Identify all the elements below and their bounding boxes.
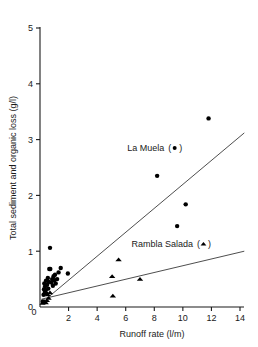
y-tick-label: 2 (28, 191, 33, 201)
data-point-la-muela (46, 286, 50, 290)
chart-figure: 012345 02468101214 La Muela()Rambla Sala… (0, 0, 258, 347)
data-point-la-muela (48, 246, 52, 250)
data-point-la-muela (66, 271, 70, 275)
la-muela-annotation-text: La Muela (127, 143, 164, 153)
scatter-plot-svg: 012345 02468101214 La Muela()Rambla Sala… (0, 0, 258, 347)
regression-lines (41, 133, 244, 299)
x-tick-label: 4 (95, 313, 100, 323)
triangle-marker-icon (201, 242, 207, 245)
x-tick-label: 6 (123, 313, 128, 323)
rambla-salada-annotation-paren-close: ) (208, 239, 211, 249)
rambla-salada-annotation: Rambla Salada() (131, 239, 211, 249)
y-tick-label: 4 (28, 79, 33, 89)
data-point-rambla-salada (110, 294, 116, 298)
la-muela-annotation-paren-close: ) (179, 143, 182, 153)
y-tick-label: 3 (28, 135, 33, 145)
data-point-rambla-salada (137, 277, 143, 281)
rambla-salada-annotation-paren-open: ( (197, 239, 200, 249)
data-point-la-muela (48, 267, 52, 271)
y-axis-ticks: 012345 (28, 23, 40, 312)
data-point-la-muela (206, 116, 210, 120)
x-axis-ticks: 02468101214 (31, 307, 245, 323)
la-muela-annotation-paren-open: ( (168, 143, 171, 153)
x-tick-label: 8 (152, 313, 157, 323)
regression-line-la-muela (49, 133, 245, 297)
data-point-la-muela (46, 276, 50, 280)
data-point-la-muela (155, 174, 159, 178)
x-tick-label: 12 (206, 313, 216, 323)
data-point-markers (39, 116, 210, 305)
x-axis-title: Runoff rate (l/m) (120, 329, 185, 339)
data-point-la-muela (184, 202, 188, 206)
la-muela-annotation: La Muela() (127, 143, 182, 153)
x-tick-label: 14 (235, 313, 245, 323)
circle-marker-icon (173, 146, 177, 150)
data-point-la-muela (59, 266, 63, 270)
data-point-la-muela (175, 224, 179, 228)
plot-axes (40, 27, 244, 307)
data-point-la-muela (55, 277, 59, 281)
x-tick-label: 0 (31, 307, 36, 317)
data-point-rambla-salada (115, 258, 121, 262)
y-tick-label: 5 (28, 23, 33, 33)
data-point-la-muela (56, 270, 60, 274)
y-tick-label: 1 (28, 247, 33, 257)
rambla-salada-annotation-text: Rambla Salada (131, 239, 193, 249)
x-tick-label: 2 (66, 313, 71, 323)
regression-line-rambla-salada (41, 251, 244, 299)
x-tick-label: 10 (178, 313, 188, 323)
data-point-rambla-salada (109, 274, 115, 278)
y-axis-title: Total sediment and organic loss (g/l) (8, 96, 18, 240)
data-point-la-muela (54, 281, 58, 285)
